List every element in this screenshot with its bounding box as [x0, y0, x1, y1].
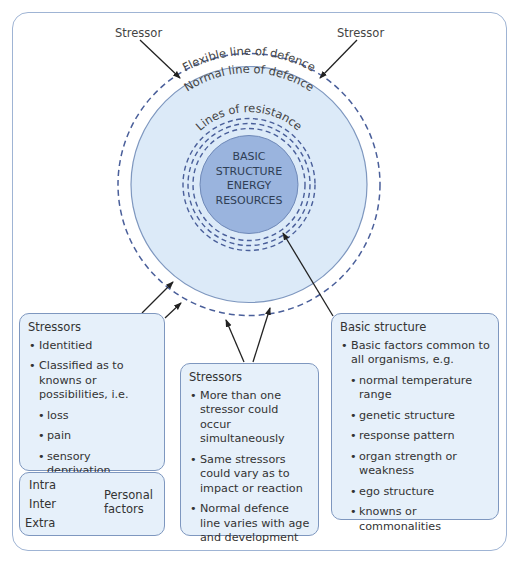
stressor-label-right: Stressor — [337, 26, 384, 40]
basic-structure-box: Basic structure Basic factors common to … — [331, 313, 499, 520]
list-item: Basic factors common to all organisms, e… — [340, 339, 490, 368]
list-subitem: normal temperature range — [350, 374, 490, 403]
extra-label: Extra — [25, 516, 55, 530]
box-title: Basic structure — [340, 320, 490, 335]
list-item: Identitied — [28, 339, 156, 354]
list-item: Same stressors could vary as to impact o… — [189, 453, 310, 497]
intra-label: Intra — [29, 478, 56, 492]
list-subitem: knowns or commonalities — [350, 505, 490, 534]
list-subitem: organ strength or weakness — [350, 450, 490, 479]
list-subitem: response pattern — [350, 429, 490, 444]
list-subitem: ego structure — [350, 485, 490, 500]
middle-box-arrow-normal — [253, 308, 270, 362]
core-line-4: RESOURCES — [200, 194, 298, 209]
core-line-2: STRUCTURE — [200, 165, 298, 180]
box-title: Stressors — [28, 320, 156, 335]
stressor-label-left: Stressor — [115, 26, 162, 40]
list-item: Classified as to knowns or possibilities… — [28, 359, 156, 403]
stressors-middle-box: Stressors More than one stressor could o… — [180, 363, 319, 536]
core-line-3: ENERGY — [200, 179, 298, 194]
list-item: Normal defence line varies with age and … — [189, 502, 310, 546]
personal-factors-label: Personal factors — [104, 488, 160, 516]
list-item: More than one stressor could occur simul… — [189, 389, 310, 447]
left-box-arrow-flexible — [165, 303, 181, 318]
middle-box-arrow-flexible — [226, 320, 244, 362]
inter-label: Inter — [29, 497, 56, 511]
core-line-1: BASIC — [200, 150, 298, 165]
left-box-arrow-normal — [142, 282, 173, 313]
box-title: Stressors — [189, 370, 310, 385]
core-label: BASIC STRUCTURE ENERGY RESOURCES — [200, 150, 298, 208]
stressors-left-box: Stressors Identitied Classified as to kn… — [19, 313, 165, 471]
list-subitem: genetic structure — [350, 409, 490, 424]
stressor-arrow-left — [140, 40, 180, 78]
list-subitem: pain — [38, 429, 156, 444]
stressor-arrow-right — [320, 40, 357, 78]
list-subitem: loss — [38, 409, 156, 424]
